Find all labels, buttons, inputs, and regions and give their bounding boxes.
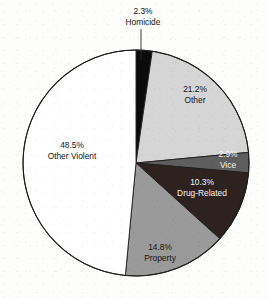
pie-chart-canvas: 2.3%Homicide21.2%Other2.9%Vice10.3%Drug-…	[0, 0, 267, 298]
pie-chart: 2.3%Homicide21.2%Other2.9%Vice10.3%Drug-…	[0, 0, 267, 298]
slice-name-vice: Vice	[220, 160, 236, 170]
slice-name-other: Other	[185, 95, 206, 105]
slice-name-property: Property	[144, 253, 176, 263]
slice-value-other-violent: 48.5%	[60, 140, 84, 150]
slice-value-vice: 2.9%	[218, 149, 238, 159]
slice-value-other: 21.2%	[183, 84, 207, 94]
slice-value-drug-related: 10.3%	[190, 177, 214, 187]
slice-name-homicide: Homicide	[126, 17, 161, 27]
pie-slices	[23, 50, 249, 276]
pie-slice-other-violent[interactable]	[23, 50, 136, 276]
slice-value-property: 14.8%	[148, 242, 172, 252]
slice-name-drug-related: Drug-Related	[177, 188, 227, 198]
pie-slice-other[interactable]	[136, 51, 249, 163]
slice-name-other-violent: Other Violent	[48, 151, 97, 161]
slice-value-homicide: 2.3%	[133, 6, 153, 16]
